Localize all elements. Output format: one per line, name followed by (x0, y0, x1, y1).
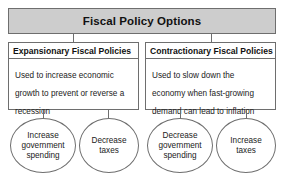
column-contractionary-header-label: Contractionary Fiscal Policies (150, 46, 273, 56)
action-ellipse-decrease-taxes: Decrease taxes (79, 118, 139, 173)
action-label: Increase taxes (217, 136, 275, 156)
connector-title-to-expansionary (73, 34, 74, 42)
connector-title-to-contractionary (211, 34, 212, 42)
action-label: Decrease taxes (80, 136, 138, 156)
connector-contractionary-to-action-2 (246, 110, 247, 118)
connector-expansionary-to-action-2 (108, 110, 109, 118)
action-ellipse-decrease-government-spending: Decrease government spending (147, 118, 213, 173)
column-contractionary-body: Used to slow down the economy when fast-… (146, 59, 275, 118)
column-contractionary-body-text: Used to slow down the economy when fast-… (152, 71, 254, 116)
action-ellipse-increase-taxes: Increase taxes (216, 118, 276, 173)
action-label: Increase government spending (11, 131, 75, 161)
action-ellipse-increase-government-spending: Increase government spending (10, 118, 76, 173)
column-expansionary: Expansionary Fiscal Policies Used to inc… (8, 42, 139, 110)
column-expansionary-body: Used to increase economic growth to prev… (9, 59, 138, 118)
column-contractionary-header: Contractionary Fiscal Policies (146, 43, 275, 59)
action-label: Decrease government spending (148, 131, 212, 161)
diagram-title: Fiscal Policy Options (83, 15, 201, 27)
column-contractionary: Contractionary Fiscal Policies Used to s… (145, 42, 276, 110)
connector-contractionary-to-action-1 (180, 110, 181, 118)
column-expansionary-header-label: Expansionary Fiscal Policies (13, 46, 131, 56)
connector-expansionary-to-action-1 (43, 110, 44, 118)
fiscal-policy-diagram: Fiscal Policy Options Expansionary Fisca… (0, 0, 284, 176)
diagram-title-box: Fiscal Policy Options (8, 8, 276, 34)
column-expansionary-header: Expansionary Fiscal Policies (9, 43, 138, 59)
